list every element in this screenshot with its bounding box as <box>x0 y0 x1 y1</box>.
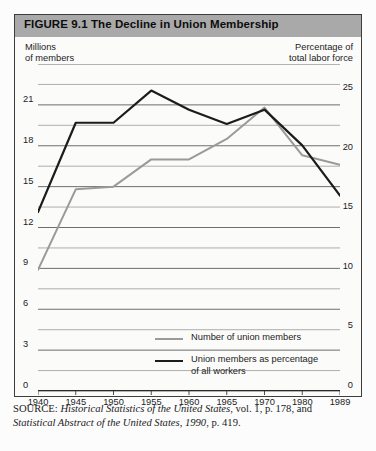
legend-label-line1: Union members as percentage <box>191 354 318 366</box>
right-tick-label: 25 <box>343 82 353 92</box>
chart-frame: FIGURE 9.1 The Decline in Union Membersh… <box>14 14 362 397</box>
right-axis-caption: Percentage of total labor force <box>289 42 353 64</box>
title-band: FIGURE 9.1 The Decline in Union Membersh… <box>15 15 361 37</box>
right-tick-label: 20 <box>343 142 353 152</box>
legend-swatch <box>155 338 183 340</box>
source-prefix: SOURCE: <box>13 403 58 414</box>
right-tick-label: 5 <box>348 320 353 330</box>
source-plain-2: , p. 419. <box>206 417 240 428</box>
source-note: SOURCE: Historical Statistics of the Uni… <box>13 402 363 429</box>
source-italic-2: Statistical Abstract of the United State… <box>13 417 206 428</box>
source-italic-1: Historical Statistics of the United Stat… <box>60 403 230 414</box>
left-axis-caption: Millions of members <box>25 42 74 64</box>
legend-label: Number of union members <box>191 332 301 344</box>
left-axis-caption-line1: Millions <box>25 42 74 53</box>
left-tick-label: 0 <box>23 380 28 390</box>
left-tick-label: 18 <box>23 135 33 145</box>
right-tick-label: 10 <box>343 261 353 271</box>
left-tick-label: 12 <box>23 217 33 227</box>
series-line-2 <box>38 91 340 213</box>
source-plain-1: , vol. 1, p. 178, and <box>230 403 312 414</box>
figure-panel: FIGURE 9.1 The Decline in Union Membersh… <box>0 0 376 451</box>
right-tick-label: 0 <box>348 380 353 390</box>
right-axis-caption-line1: Percentage of <box>289 42 353 53</box>
legend-item: Number of union members <box>155 333 345 355</box>
left-axis-caption-line2: of members <box>25 53 74 64</box>
left-tick-label: 15 <box>23 176 33 186</box>
right-axis-caption-line2: total labor force <box>289 53 353 64</box>
legend-label: Union members as percentageof all worker… <box>191 354 318 377</box>
series-line-1 <box>38 108 340 270</box>
legend-item: Union members as percentageof all worker… <box>155 355 345 377</box>
legend-label-line2: of all workers <box>191 366 318 378</box>
right-tick-label: 15 <box>343 201 353 211</box>
chart-legend: Number of union membersUnion members as … <box>155 333 345 377</box>
left-tick-label: 3 <box>23 339 28 349</box>
left-tick-label: 6 <box>23 298 28 308</box>
page-title: FIGURE 9.1 The Decline in Union Membersh… <box>24 18 279 30</box>
legend-swatch <box>155 360 183 362</box>
left-tick-label: 21 <box>23 94 33 104</box>
left-tick-label: 9 <box>23 257 28 267</box>
